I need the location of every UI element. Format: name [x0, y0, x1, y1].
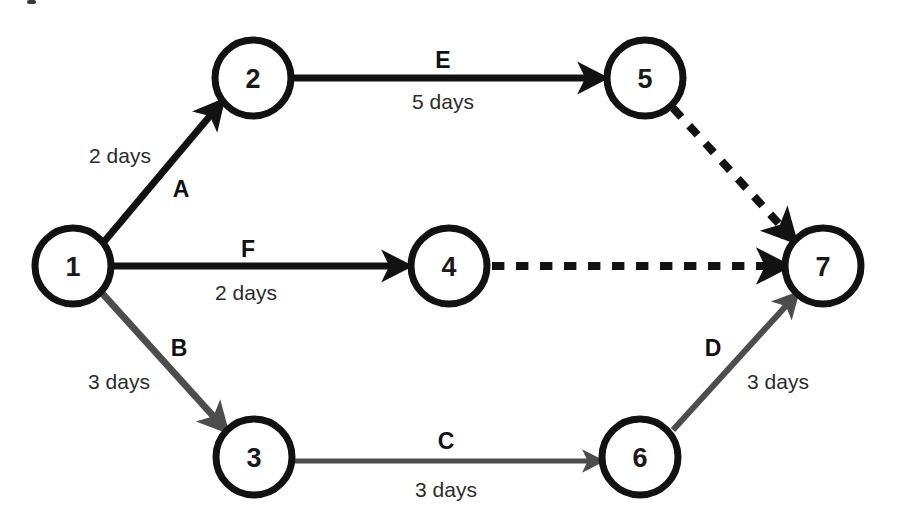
edge-b-arrow	[101, 292, 224, 428]
node-label-5: 5	[637, 64, 652, 94]
activity-label-e: E	[435, 47, 450, 73]
network-diagram-canvas: 1234567 A2 daysB3 daysC3 daysD3 daysE5 d…	[0, 0, 898, 528]
node-label-3: 3	[246, 443, 261, 473]
duration-label-a: 2 days	[89, 144, 151, 167]
activity-label-a: A	[173, 176, 190, 202]
activity-label-c: C	[438, 428, 455, 454]
node-7[interactable]: 7	[785, 228, 861, 304]
node-2[interactable]: 2	[215, 40, 291, 116]
node-label-6: 6	[632, 443, 647, 473]
node-1[interactable]: 1	[35, 228, 111, 304]
duration-label-d: 3 days	[747, 370, 809, 393]
duration-label-f: 2 days	[215, 281, 277, 304]
activity-label-f: F	[241, 236, 255, 262]
duration-label-e: 5 days	[412, 90, 474, 113]
node-6[interactable]: 6	[602, 419, 678, 495]
node-label-1: 1	[65, 252, 80, 282]
node-4[interactable]: 4	[411, 228, 487, 304]
activity-label-d: D	[705, 335, 722, 361]
scan-speck-artifact	[27, 0, 36, 4]
activity-label-b: B	[171, 335, 188, 361]
edge-a-arrow	[103, 104, 220, 243]
edge-d-arrow	[673, 296, 795, 430]
node-5[interactable]: 5	[607, 40, 683, 116]
node-label-4: 4	[441, 252, 456, 282]
node-label-7: 7	[815, 252, 830, 282]
node-3[interactable]: 3	[216, 419, 292, 495]
duration-label-c: 3 days	[415, 478, 477, 501]
node-label-2: 2	[245, 64, 260, 94]
network-diagram-svg: 1234567 A2 daysB3 daysC3 daysD3 daysE5 d…	[0, 0, 898, 528]
duration-label-b: 3 days	[88, 370, 150, 393]
edge-5-to-7-arrow	[673, 108, 792, 238]
